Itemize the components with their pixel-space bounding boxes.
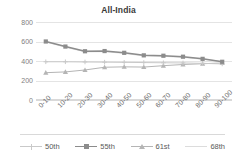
- y-axis-tick-labels: 0200400600800: [0, 0, 33, 122]
- plot-area: [36, 22, 232, 100]
- legend-item-61st[interactable]: 61st: [131, 142, 170, 151]
- legend-key-icon: [185, 142, 207, 151]
- data-point-cross: [142, 60, 147, 65]
- data-point-cross: [102, 60, 107, 65]
- data-point-square: [201, 57, 205, 61]
- series-55th: [44, 39, 225, 63]
- data-point-square: [181, 55, 185, 59]
- chart-legend: 50th55th61st68th: [20, 134, 225, 154]
- legend-item-55th[interactable]: 55th: [75, 142, 115, 151]
- data-point-cross: [63, 59, 68, 64]
- legend-key-icon: [131, 142, 153, 151]
- y-tick-label: 600: [3, 38, 33, 45]
- data-point-square: [161, 54, 165, 58]
- data-point-cross: [122, 60, 127, 65]
- data-point-cross: [83, 60, 88, 65]
- data-point-square: [122, 51, 126, 55]
- data-point-square: [142, 53, 146, 57]
- y-tick-label: 200: [3, 77, 33, 84]
- chart-container: All-India 0200400600800 0-1010-2020-3030…: [0, 0, 237, 156]
- legend-marker-cross-icon: [28, 144, 34, 150]
- series-line: [46, 62, 222, 64]
- data-point-cross: [161, 60, 166, 65]
- legend-label: 55th: [100, 142, 115, 151]
- data-point-cross: [44, 59, 49, 64]
- y-tick-label: 400: [3, 58, 33, 65]
- series-line: [46, 42, 222, 62]
- y-tick-label: 800: [3, 19, 33, 26]
- legend-marker-square-icon: [84, 144, 89, 149]
- data-point-square: [220, 60, 224, 64]
- data-point-square: [63, 44, 67, 48]
- legend-key-icon: [20, 142, 42, 151]
- legend-key-icon: [75, 142, 97, 151]
- legend-label: 50th: [45, 142, 60, 151]
- series-50th: [44, 59, 225, 66]
- legend-item-68th[interactable]: 68th: [185, 142, 225, 151]
- data-point-square: [44, 39, 48, 43]
- data-point-square: [83, 49, 87, 53]
- data-point-square: [103, 49, 107, 53]
- series-layer: [36, 22, 232, 100]
- y-tick-label: 0: [3, 97, 33, 104]
- legend-marker-triangle-icon: [139, 144, 145, 149]
- legend-item-50th[interactable]: 50th: [20, 142, 60, 151]
- x-axis-tick-labels: 0-1010-2020-3030-4040-5050-6060-7070-808…: [36, 101, 232, 133]
- legend-label: 61st: [156, 142, 170, 151]
- chart-title: All-India: [0, 5, 237, 15]
- series-line: [46, 63, 222, 73]
- legend-label: 68th: [210, 142, 225, 151]
